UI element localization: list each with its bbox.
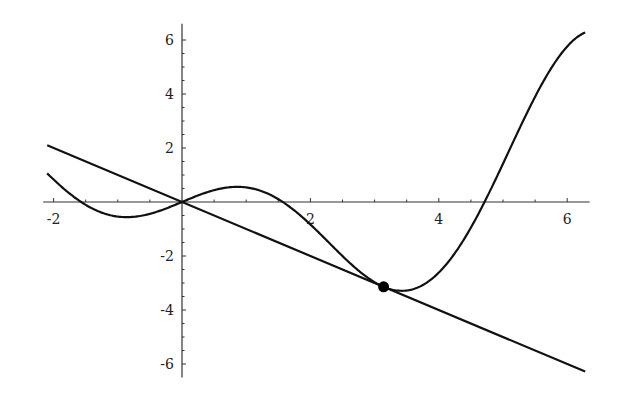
x-tick-label: -2: [47, 211, 61, 227]
chart-plot: -2246642-2-4-6: [0, 0, 630, 401]
tangent-line-series: [47, 145, 585, 371]
tangent-point-marker: [378, 281, 389, 292]
y-tick-label: 2: [165, 140, 174, 156]
y-tick-label: -6: [160, 356, 174, 372]
y-tick-label: -4: [160, 302, 174, 318]
curve-series: [47, 32, 585, 290]
axes: -2246642-2-4-6: [43, 24, 589, 378]
annotations: [378, 281, 389, 292]
x-tick-label: 6: [563, 211, 572, 227]
y-tick-label: -2: [160, 248, 174, 264]
x-tick-label: 4: [434, 211, 443, 227]
y-tick-label: 4: [165, 86, 174, 102]
y-tick-label: 6: [165, 32, 174, 48]
